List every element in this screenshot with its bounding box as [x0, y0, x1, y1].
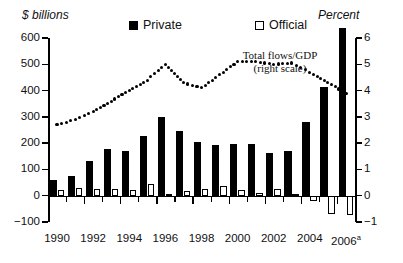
bar-official	[292, 194, 298, 196]
line-dot	[106, 102, 109, 105]
line-dot	[83, 114, 86, 117]
line-dot	[92, 110, 95, 113]
y-tick-label-left: 600	[0, 32, 40, 44]
x-tick	[301, 197, 302, 204]
line-dot	[277, 62, 280, 65]
line-dot	[135, 85, 138, 88]
y-tick-right	[356, 37, 362, 38]
x-tick	[156, 197, 157, 204]
x-label-superscript: a	[357, 233, 361, 242]
legend-label-private: Private	[143, 18, 182, 32]
line-dot	[337, 87, 340, 90]
bar-private	[194, 142, 201, 196]
x-tick	[211, 197, 212, 202]
bar-official	[58, 190, 64, 196]
line-dot	[295, 64, 298, 67]
x-tick	[319, 197, 320, 202]
bar-private	[212, 145, 219, 196]
x-tick	[120, 197, 121, 204]
bar-official	[130, 190, 136, 196]
line-dot	[110, 100, 113, 103]
bar-official	[166, 194, 172, 196]
line-dot	[55, 123, 58, 126]
bar-official	[148, 184, 154, 195]
line-dot	[65, 121, 68, 124]
line-dot	[286, 62, 289, 65]
bar-private	[284, 151, 291, 196]
line-dot	[102, 104, 105, 107]
x-tick	[102, 197, 103, 202]
x-tick	[283, 197, 284, 202]
bar-private	[302, 122, 309, 196]
bar-official	[328, 196, 334, 214]
line-dot	[268, 62, 271, 65]
bar-private	[104, 149, 111, 196]
y-tick-right	[356, 169, 362, 170]
line-dot	[222, 71, 225, 74]
y-tick-label-left: −100	[0, 216, 40, 228]
y-tick-label-right: 4	[364, 85, 403, 97]
bar-official	[238, 190, 244, 195]
line-dot	[191, 84, 194, 87]
y-tick-label-left: 0	[0, 190, 40, 202]
y-tick-label-right: −1	[364, 216, 403, 228]
line-dot	[204, 84, 207, 87]
x-tick	[229, 197, 230, 204]
line-dot	[250, 60, 253, 63]
bar-official	[220, 186, 226, 195]
line-dot	[195, 85, 198, 88]
line-dot	[290, 61, 293, 64]
line-dot	[128, 89, 131, 92]
y-tick-right	[356, 142, 362, 143]
bar-private	[86, 161, 93, 196]
y-tick-right	[356, 116, 362, 117]
bar-official	[256, 193, 262, 195]
bar-official	[94, 189, 100, 196]
x-tick-label: 2006a	[323, 232, 369, 247]
x-tick	[48, 197, 49, 204]
bar-private	[176, 131, 183, 196]
line-dot	[60, 122, 63, 125]
bar-private	[158, 117, 165, 195]
bar-official	[76, 188, 82, 196]
bar-official	[310, 196, 316, 202]
line-dot	[259, 61, 262, 64]
bars-layer	[48, 38, 355, 222]
y-tick-label-right: 2	[364, 137, 403, 149]
line-dot	[142, 81, 145, 84]
y-axis-title-left: $ billions	[22, 8, 69, 22]
line-dot	[113, 97, 116, 100]
bar-private	[122, 151, 129, 196]
bar-private	[339, 28, 346, 196]
x-tick	[66, 197, 67, 202]
bar-private	[266, 153, 273, 195]
y-tick-label-right: 5	[364, 58, 403, 70]
line-dot	[232, 63, 235, 66]
bar-official	[347, 196, 353, 215]
legend-swatch-private-icon	[129, 21, 138, 30]
x-tick	[337, 197, 338, 204]
y-tick-label-right: 1	[364, 163, 403, 175]
x-tick	[192, 197, 193, 204]
y-tick-right	[356, 64, 362, 65]
y-tick-label-right: 3	[364, 111, 403, 123]
line-dot	[157, 69, 160, 72]
line-dot	[344, 92, 347, 95]
y-tick-label-left: 200	[0, 137, 40, 149]
bar-private	[230, 144, 237, 195]
bar-official	[112, 189, 118, 196]
line-dot	[241, 60, 244, 63]
legend-label-official: Official	[269, 18, 307, 32]
y-tick-label-left: 500	[0, 58, 40, 70]
y-tick-right	[356, 90, 362, 91]
line-dot	[146, 79, 149, 82]
line-dot	[74, 118, 77, 121]
x-tick	[265, 197, 266, 204]
bar-private	[140, 136, 147, 196]
y-tick-label-left: 100	[0, 163, 40, 175]
bar-official	[202, 189, 208, 196]
line-dot	[164, 63, 167, 66]
legend-swatch-official-icon	[255, 21, 264, 30]
bar-official	[184, 191, 190, 195]
x-tick	[138, 197, 139, 202]
